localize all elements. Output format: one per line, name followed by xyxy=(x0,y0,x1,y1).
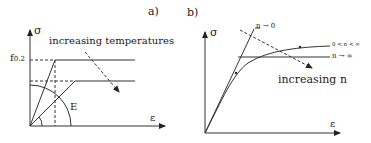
x-axis-label-a: ε xyxy=(150,113,155,123)
n0-label: n → 0 xyxy=(256,23,275,30)
diagram-canvas xyxy=(0,0,371,143)
modulus-label: E xyxy=(70,102,77,112)
elastic-line-high xyxy=(30,60,55,126)
modulus-arc-small xyxy=(39,117,42,126)
x-axis-label-b: ε xyxy=(330,119,335,129)
temperature-arrow xyxy=(85,52,119,92)
ninf-label: n → ∞ xyxy=(332,53,353,60)
temperature-annotation: increasing temperatures xyxy=(49,36,174,46)
sigma-label-b: σ xyxy=(210,27,218,38)
increasing-n-annotation: increasing n xyxy=(278,74,347,85)
sigma-label-a: σ xyxy=(34,25,42,36)
elastic-line-low xyxy=(30,81,75,126)
panel-b-label: b) xyxy=(187,7,198,18)
increasing-n-arrow xyxy=(240,30,312,68)
curve-mid xyxy=(205,46,330,133)
nmid-label: 0 < n < ∞ xyxy=(332,42,360,48)
yield-sub: 0.2 xyxy=(14,55,25,63)
yield-strength-label: f0.2 xyxy=(10,53,25,63)
curve-dot-1 xyxy=(235,72,237,74)
panel-a-label: a) xyxy=(148,6,159,17)
curve-dot-2 xyxy=(299,46,301,48)
